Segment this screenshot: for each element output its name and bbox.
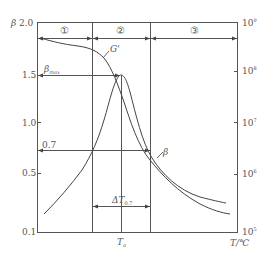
y-label-0-1: 0.1	[22, 227, 36, 237]
region-2-label: ②	[116, 25, 125, 36]
region-3-label: ③	[190, 25, 199, 36]
r-label-9: 109	[242, 17, 257, 28]
x-axis-label: T/℃	[230, 238, 250, 248]
y-label-1-0: 1.0	[22, 118, 37, 128]
region-1-label: ①	[60, 25, 69, 36]
beta-label: β	[162, 147, 168, 157]
delta-t-label: ΔT0.7	[111, 195, 132, 206]
g-prime-label: G'	[110, 44, 120, 54]
beta-curve	[44, 75, 226, 214]
y-label-2-0: 2.0	[19, 18, 34, 28]
r-label-6: 106	[242, 168, 257, 179]
y-label-1-5: 1.5	[22, 70, 37, 80]
r-label-5: 105	[242, 226, 257, 237]
ta-label: Ta	[117, 237, 126, 248]
beta-max-label: βmax	[43, 64, 60, 75]
plot-frame	[38, 23, 238, 233]
beta-axis-label: β	[10, 18, 16, 28]
r-label-7: 107	[242, 117, 257, 128]
beta-07-label: 0.7	[42, 140, 57, 150]
y-label-0-5: 0.5	[22, 168, 37, 178]
r-label-8: 108	[242, 65, 257, 76]
g-prime-leader	[103, 51, 109, 58]
damping-modulus-diagram: β 2.0 1.5 1.0 0.5 0.1 109 108 107 106 10…	[0, 0, 268, 258]
